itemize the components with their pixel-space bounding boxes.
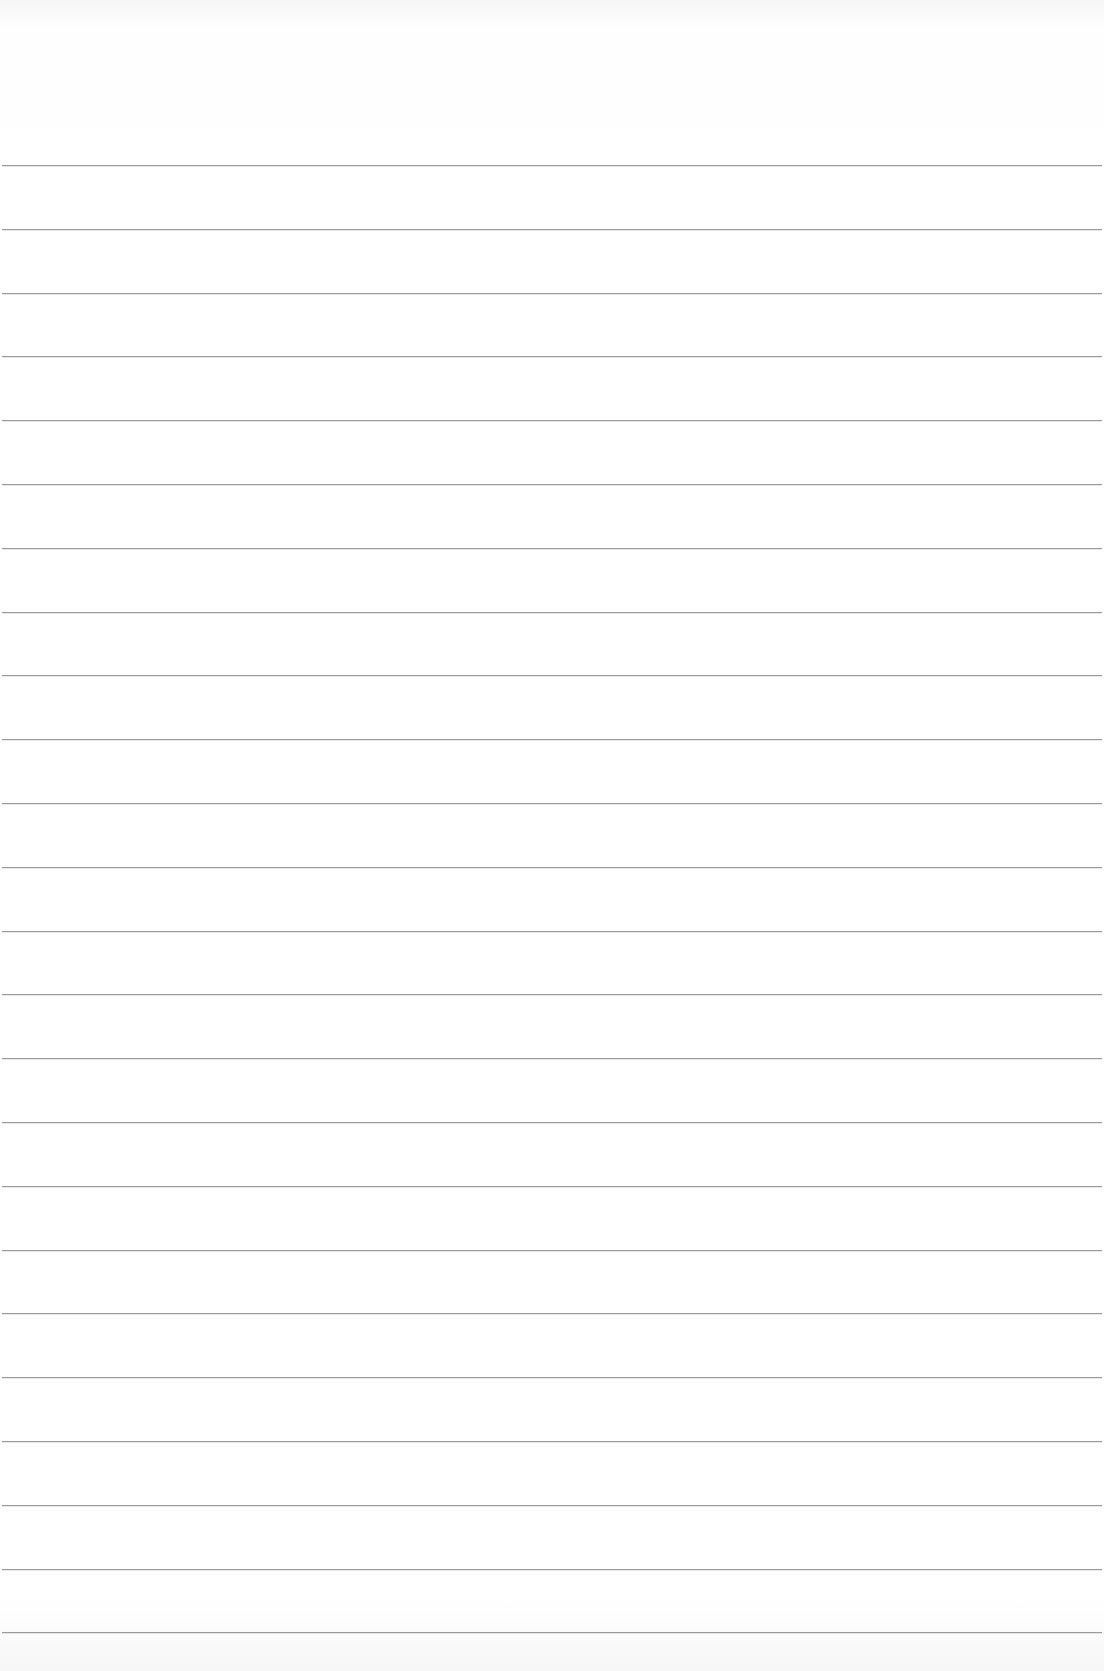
ruled-line <box>2 994 1102 995</box>
ruled-line <box>2 1186 1102 1187</box>
ruled-line <box>2 484 1102 485</box>
ruled-line <box>2 1377 1102 1378</box>
ruled-line <box>2 293 1102 294</box>
ruled-line <box>2 356 1102 357</box>
ruled-line <box>2 229 1102 230</box>
ruled-line <box>2 1313 1102 1314</box>
ruled-line <box>2 1441 1102 1442</box>
ruled-line <box>2 1058 1102 1059</box>
ruled-line <box>2 420 1102 421</box>
ruled-line <box>2 1632 1102 1633</box>
ruled-line <box>2 1122 1102 1123</box>
ruled-line <box>2 803 1102 804</box>
ruled-line <box>2 931 1102 932</box>
ruled-line <box>2 867 1102 868</box>
ruled-line <box>2 612 1102 613</box>
ruled-line <box>2 675 1102 676</box>
ruled-line <box>2 548 1102 549</box>
ruled-line <box>2 1505 1102 1506</box>
ruled-line <box>2 1250 1102 1251</box>
ruled-line <box>2 1569 1102 1570</box>
ruled-line <box>2 165 1102 166</box>
lined-paper-page <box>0 0 1104 1671</box>
ruled-line <box>2 739 1102 740</box>
